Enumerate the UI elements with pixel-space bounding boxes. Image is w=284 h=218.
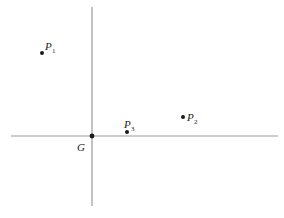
point-label: P <box>123 118 131 130</box>
point-p3: P 3 <box>123 118 135 134</box>
point-marker <box>181 115 185 119</box>
point-subscript: 3 <box>131 125 135 133</box>
point-subscript: 1 <box>52 47 56 55</box>
diagram-canvas: G P 1 P 2 P 3 <box>0 0 284 218</box>
point-marker <box>125 130 129 134</box>
point-p1: P 1 <box>40 40 56 55</box>
point-label: P <box>44 40 52 52</box>
point-label: P <box>186 111 194 123</box>
point-subscript: 2 <box>194 118 198 126</box>
point-p2: P 2 <box>181 111 198 126</box>
origin-point <box>90 134 95 139</box>
origin-label: G <box>77 141 85 153</box>
point-marker <box>40 51 44 55</box>
